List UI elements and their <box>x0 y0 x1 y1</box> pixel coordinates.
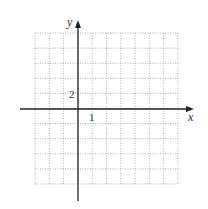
axes <box>20 20 194 201</box>
coordinate-grid-chart: y x 2 1 <box>0 0 208 209</box>
y-axis-arrow-icon <box>75 20 81 28</box>
x-axis-label: x <box>187 110 194 124</box>
x-tick-label: 1 <box>89 111 95 123</box>
y-axis-label: y <box>66 15 73 29</box>
y-tick-label: 2 <box>69 88 75 100</box>
